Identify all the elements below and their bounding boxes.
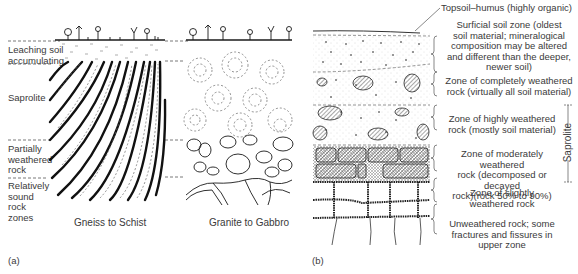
zone-text-line: Unweathered rock; some (440, 219, 564, 230)
zone-highly-weathered: Zone of highly weathered rock (mostly so… (440, 114, 564, 135)
fractures (332, 218, 421, 245)
zone-braces (431, 36, 437, 234)
zone-text-line: Surficial soil zone (oldest (440, 20, 578, 31)
zone-text-line: rock (virtually all soil material) (440, 87, 578, 98)
zone-text-line: weathered rock (440, 199, 564, 210)
zone-completely-weathered: Zone of completely weathered rock (virtu… (440, 76, 578, 97)
topsoil-leader (415, 8, 440, 31)
zone-text-line: rock (mostly soil material) (440, 125, 564, 136)
label-topsoil-humus: Topsoil–humus (highly organic) (441, 3, 578, 14)
zone-text-line: Zone of completely weathered (440, 76, 578, 87)
zone-text-line: Zone of moderately weathered (440, 149, 564, 170)
zone-text-line: upper zone (440, 240, 564, 251)
zone-slightly-weathered: Zone of slightly weathered rock (440, 188, 564, 209)
joint-network (313, 182, 430, 218)
saprolite-range-label: Saprolite (563, 124, 574, 162)
zone-unweathered-rock: Unweathered rock; some fractures and fis… (440, 219, 564, 251)
zone-surficial-soil: Surficial soil zone (oldest soil materia… (440, 20, 578, 73)
panel-b-tag: (b) (312, 256, 324, 267)
zone-text-line: Zone of slightly (440, 188, 564, 199)
zone-text-line: newer soil) (440, 62, 578, 73)
zone-text-line: Zone of highly weathered (440, 114, 564, 125)
